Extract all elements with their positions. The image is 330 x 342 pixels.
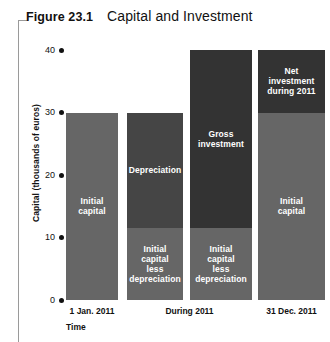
y-axis-tick-marker-icon (59, 235, 64, 240)
bar-segment[interactable]: Gross investment (190, 50, 252, 228)
y-axis-tick-marker-icon (59, 48, 64, 53)
bar-segment-label: Initial capital (278, 196, 306, 216)
bar-segment-label: Initial capital (78, 196, 106, 216)
bar-3[interactable]: Gross investmentInitial capital less dep… (190, 50, 252, 300)
bar-segment-label: Depreciation (129, 165, 182, 175)
bar-segment-label: Net investment during 2011 (267, 66, 315, 96)
y-axis-tick-label: 40 (45, 46, 55, 55)
bar-segment[interactable]: Net investment during 2011 (258, 50, 325, 113)
y-axis-tick-label: 30 (45, 108, 55, 117)
y-axis-tick-label: 0 (50, 296, 55, 305)
bar-segment[interactable]: Initial capital (258, 113, 325, 301)
x-axis-label: Time (66, 322, 86, 332)
bar-4[interactable]: Net investment during 2011Initial capita… (258, 50, 325, 300)
figure-number: Figure 23.1 (26, 10, 93, 24)
y-axis-tick: 0 (28, 294, 64, 306)
y-axis-tick-marker-icon (59, 298, 64, 303)
bar-segment[interactable]: Initial capital (66, 113, 118, 301)
figure-container: Figure 23.1 Capital and Investment Capit… (0, 0, 330, 342)
figure-title-row: Figure 23.1 Capital and Investment (26, 8, 326, 32)
bar-2[interactable]: DepreciationInitial capital less depreci… (127, 113, 183, 301)
bar-segment-label: Gross investment (198, 129, 244, 149)
bar-segment-label: Initial capital less depreciation (129, 244, 181, 284)
y-axis-tick: 40 (28, 44, 64, 56)
y-axis-tick-label: 10 (45, 233, 55, 242)
bar-1[interactable]: Initial capital (66, 113, 118, 301)
plot-area: Initial capitalDepreciationInitial capit… (66, 50, 325, 300)
bar-segment-label: Initial capital less depreciation (195, 244, 247, 284)
decorative-frame-line (18, 20, 19, 342)
y-axis-tick-label: 20 (45, 171, 55, 180)
bar-segment[interactable]: Initial capital less depreciation (190, 228, 252, 300)
figure-title: Capital and Investment (107, 8, 252, 24)
bar-segment[interactable]: Initial capital less depreciation (127, 228, 183, 300)
bar-segment[interactable]: Depreciation (127, 113, 183, 229)
y-axis-tick: 30 (28, 107, 64, 119)
y-axis-tick-marker-icon (59, 110, 64, 115)
y-axis-tick-marker-icon (59, 173, 64, 178)
y-axis-tick: 20 (28, 169, 64, 181)
y-axis-tick: 10 (28, 232, 64, 244)
x-axis-tick-label: 31 Dec. 2011 (238, 306, 330, 318)
